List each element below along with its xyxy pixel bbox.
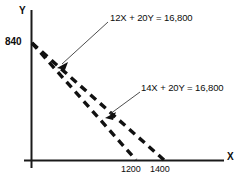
constraint-line-12x-20y	[32, 43, 164, 160]
constraint-line-14x-20y	[32, 43, 136, 160]
constraint-lines-figure: Y X 840 1200 1400 12X + 20Y = 16,800 14X…	[0, 0, 243, 186]
x-axis-label: X	[227, 152, 234, 162]
leader-line-12x-20y	[62, 22, 108, 64]
x-tick-label-1200: 1200	[121, 165, 141, 174]
equation-label-12x-20y: 12X + 20Y = 16,800	[110, 13, 193, 23]
equation-label-14x-20y: 14X + 20Y = 16,800	[141, 83, 224, 93]
y-intercept-tick-label: 840	[5, 37, 21, 47]
x-tick-label-1400: 1400	[150, 165, 170, 174]
figure-canvas	[0, 0, 243, 186]
y-axis-label: Y	[19, 6, 26, 16]
leader-line-14x-20y	[110, 92, 140, 114]
